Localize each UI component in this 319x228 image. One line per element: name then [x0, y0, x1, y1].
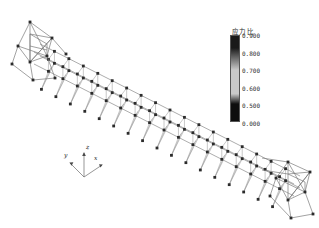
model-node — [255, 153, 258, 156]
model-node — [163, 129, 166, 132]
model-node — [163, 117, 166, 120]
model-node — [228, 183, 231, 186]
model-node — [249, 173, 252, 176]
model-node — [112, 125, 115, 128]
axis-label-y: y — [64, 151, 67, 158]
model-node — [40, 88, 43, 91]
model-node — [125, 99, 128, 102]
model-node — [170, 154, 173, 157]
model-node — [148, 121, 151, 124]
model-node — [169, 109, 172, 112]
model-node — [82, 65, 85, 68]
legend-colorbar — [230, 35, 240, 122]
model-node — [134, 102, 137, 105]
model-node — [156, 147, 159, 150]
model-node — [111, 91, 114, 94]
model-node — [206, 139, 209, 142]
model-node — [53, 62, 56, 65]
axis-label-z: z — [86, 143, 89, 150]
model-node — [270, 160, 273, 163]
model-node — [199, 169, 202, 172]
model-node — [191, 131, 194, 134]
model-node — [141, 139, 144, 142]
model-node — [98, 117, 101, 120]
model-node — [54, 95, 57, 98]
legend-tick: 0.600 — [242, 85, 260, 92]
model-node — [197, 123, 200, 126]
model-node — [90, 92, 93, 95]
model-node — [235, 153, 238, 156]
model-node — [61, 77, 64, 80]
legend-tick: 0.700 — [242, 67, 260, 74]
model-node — [61, 65, 64, 68]
model-node — [177, 124, 180, 127]
axis-triad: x y z — [60, 143, 110, 185]
model-node — [53, 50, 56, 53]
model-node — [67, 57, 70, 60]
model-node — [119, 107, 122, 110]
right-tower-nodes — [269, 161, 315, 220]
left-tower-nodes — [11, 21, 68, 82]
model-node — [255, 165, 258, 168]
model-node — [140, 106, 143, 109]
model-node — [169, 121, 172, 124]
model-node — [184, 161, 187, 164]
model-node — [213, 176, 216, 179]
legend-tick: 0.900 — [242, 32, 260, 39]
model-node — [111, 79, 114, 82]
model-node — [125, 87, 128, 90]
model-node — [119, 95, 122, 98]
model-node — [278, 187, 281, 190]
model-node — [183, 116, 186, 119]
model-node — [134, 114, 137, 117]
model-node — [96, 84, 99, 87]
model-node — [270, 172, 273, 175]
model-node — [148, 109, 151, 112]
model-node — [96, 72, 99, 75]
model-node — [241, 157, 244, 160]
model-node — [284, 167, 287, 170]
axis-label-x: x — [94, 154, 97, 161]
model-node — [212, 131, 215, 134]
model-node — [249, 161, 252, 164]
legend-tick-list: 0.9000.8000.7000.6000.5000.000 — [242, 32, 298, 124]
model-node — [206, 151, 209, 154]
model-node — [241, 145, 244, 148]
model-node — [183, 128, 186, 131]
model-node — [140, 94, 143, 97]
legend-tick: 0.500 — [242, 102, 260, 109]
model-node — [47, 70, 50, 73]
model-node — [278, 175, 281, 178]
model-node — [242, 191, 245, 194]
model-node — [127, 132, 130, 135]
model-node — [191, 143, 194, 146]
legend-tick: 0.000 — [242, 120, 260, 127]
model-node — [271, 205, 274, 208]
model-node — [226, 150, 229, 153]
visualization-root: 应力比 0.9000.8000.7000.6000.5000.000 x y z — [0, 0, 319, 228]
model-node — [83, 110, 86, 113]
model-node — [154, 113, 157, 116]
model-node — [235, 165, 238, 168]
model-node — [76, 85, 79, 88]
model-node — [67, 69, 70, 72]
model-node — [220, 146, 223, 149]
model-node — [76, 73, 79, 76]
model-node — [105, 99, 108, 102]
model-node — [197, 135, 200, 138]
model-node — [154, 101, 157, 104]
axis-triad-arrowheads — [69, 152, 102, 168]
model-node — [90, 80, 93, 83]
left-support-tower — [12, 22, 66, 80]
model-node — [226, 138, 229, 141]
model-node — [264, 180, 267, 183]
model-node — [105, 87, 108, 90]
model-node — [82, 77, 85, 80]
model-node — [69, 103, 72, 106]
right-support-tower — [262, 158, 313, 218]
legend-tick: 0.800 — [242, 50, 260, 57]
model-node — [257, 198, 260, 201]
model-node — [177, 136, 180, 139]
model-node — [284, 179, 287, 182]
stress-ratio-legend: 应力比 0.9000.8000.7000.6000.5000.000 — [228, 26, 300, 126]
